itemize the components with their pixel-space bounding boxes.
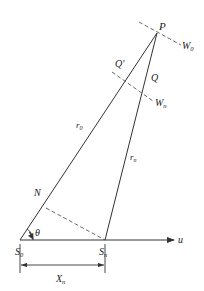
geometry-diagram: P W0 Q' Q Wn r0 rn N θ S0 Sn u Xn [0,0,204,291]
label-Q: Q [151,72,159,83]
n-sn-perpendicular [46,208,105,240]
label-theta: θ [35,227,40,238]
label-S0: S0 [15,246,24,258]
wn-wavefront [112,72,153,101]
label-Wn: Wn [155,97,167,109]
theta-arc [27,229,33,240]
label-W0: W0 [182,40,194,52]
label-Qprime: Q' [115,58,125,69]
label-rn: rn [130,152,137,163]
label-Xn: Xn [55,273,65,285]
label-P: P [158,20,166,32]
label-u: u [178,234,183,245]
r0-line [20,33,157,240]
rn-line [105,33,157,240]
label-Sn: Sn [99,246,107,258]
label-N: N [33,187,42,198]
label-r0: r0 [76,120,83,131]
